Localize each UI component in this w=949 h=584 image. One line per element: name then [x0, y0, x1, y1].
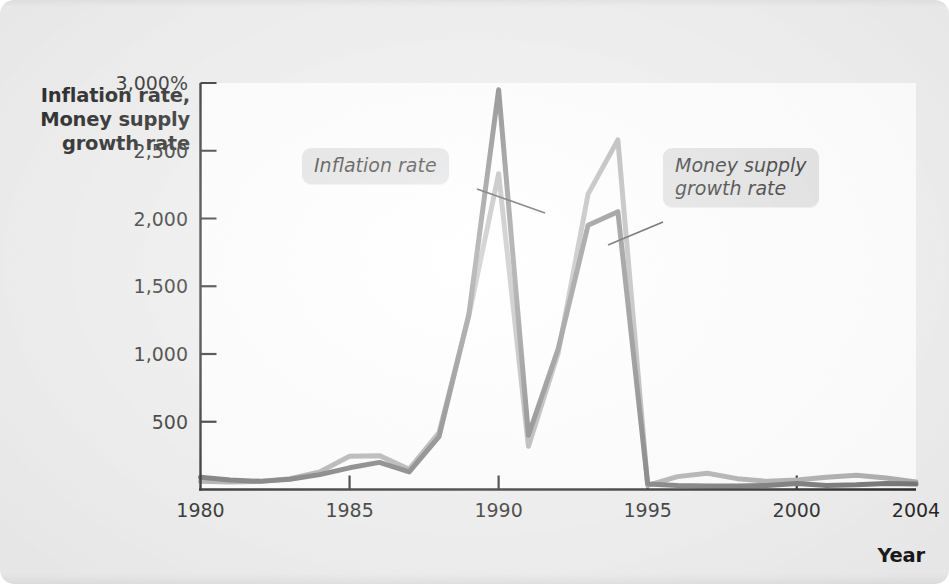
y-axis-tick-label: 1,000 [134, 343, 188, 365]
callout-money-supply-growth-rate: Money supply growth rate [663, 148, 819, 207]
x-axis-tick-label: 1990 [474, 499, 522, 521]
y-axis-tick-label: 1,500 [134, 275, 188, 297]
y-axis-tick-label: 2,500 [134, 140, 188, 162]
x-axis-tick-label: 1985 [325, 499, 373, 521]
x-axis-tick-label: 2000 [773, 499, 821, 521]
x-axis-title: Year [877, 544, 925, 568]
x-axis-tick-label: 1980 [176, 499, 224, 521]
y-axis-tick-label: 2,000 [134, 208, 188, 230]
x-axis-tick-label: 1995 [624, 499, 672, 521]
x-axis-tick-label: 2004 [892, 499, 940, 521]
axis-ticks [201, 83, 797, 490]
y-axis-tick-label: 500 [152, 411, 188, 433]
figure-container: Inflation rate, Money supply growth rate… [0, 0, 949, 584]
axis-lines [199, 83, 916, 491]
callout-inflation-rate: Inflation rate [302, 148, 449, 184]
y-axis-tick-label: 3,000% [116, 72, 188, 94]
